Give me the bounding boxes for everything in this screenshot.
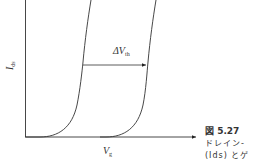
- y-axis-label-sub: ds: [10, 61, 16, 66]
- figure-caption-line1: ドレイン‐: [205, 137, 245, 148]
- delta-vth-label-sub: th: [125, 51, 130, 57]
- figure-number: 図 5.27: [205, 124, 239, 137]
- curve-after-shift: [100, 0, 156, 137]
- x-axis-label: Vg: [103, 145, 112, 157]
- delta-vth-label-main: ΔV: [113, 45, 125, 56]
- delta-vth-label: ΔVth: [113, 45, 130, 57]
- figure-caption-line2: (Ids) とゲ: [205, 149, 249, 160]
- curve-before-shift: [25, 0, 91, 137]
- y-axis-label-main: I: [4, 67, 15, 70]
- x-axis-label-sub: g: [109, 151, 112, 157]
- y-axis-label: Ids: [4, 61, 16, 70]
